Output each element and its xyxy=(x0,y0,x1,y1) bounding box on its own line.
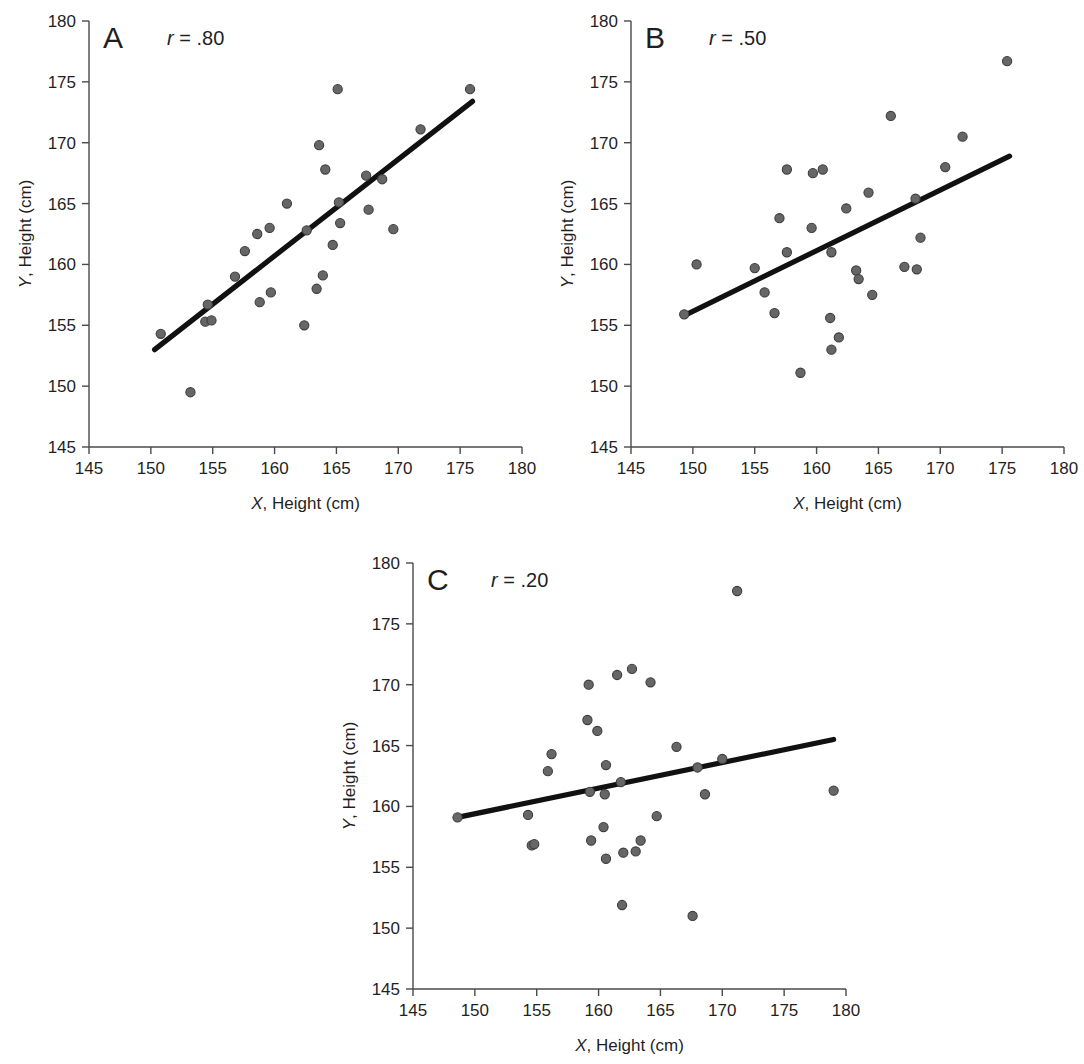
data-point xyxy=(733,586,742,595)
data-point xyxy=(692,260,701,269)
y-tick-label: 150 xyxy=(590,377,618,396)
x-tick-label: 145 xyxy=(617,459,645,478)
data-point xyxy=(864,188,873,197)
data-point xyxy=(941,162,950,171)
data-point xyxy=(652,812,661,821)
x-tick-label: 165 xyxy=(646,1001,674,1020)
x-tick-label: 170 xyxy=(708,1001,736,1020)
panel-letter: A xyxy=(103,21,123,54)
data-point xyxy=(334,198,343,207)
data-point-group xyxy=(453,586,838,920)
data-point xyxy=(852,266,861,275)
x-tick-label: 170 xyxy=(926,459,954,478)
y-tick-label: 180 xyxy=(48,12,76,31)
data-point xyxy=(808,169,817,178)
data-point xyxy=(827,345,836,354)
y-axis-title: Y, Height (cm) xyxy=(16,180,35,289)
x-tick-label: 165 xyxy=(864,459,892,478)
data-point xyxy=(770,309,779,318)
data-point xyxy=(688,911,697,920)
data-point xyxy=(186,388,195,397)
y-tick-label: 160 xyxy=(48,255,76,274)
data-point xyxy=(829,786,838,795)
y-tick-label: 145 xyxy=(590,438,618,457)
y-tick-label: 175 xyxy=(48,73,76,92)
correlation-value: = .50 xyxy=(716,27,767,49)
data-point xyxy=(782,165,791,174)
x-tick-label: 175 xyxy=(446,459,474,478)
data-point xyxy=(389,225,398,234)
panel-a: 1451501551601651701751801451501551601651… xyxy=(0,0,560,522)
y-axis-title: Y, Height (cm) xyxy=(340,722,359,831)
x-tick-label: 175 xyxy=(988,459,1016,478)
y-tick-label: 170 xyxy=(590,134,618,153)
regression-line xyxy=(155,101,473,349)
data-point xyxy=(253,229,262,238)
panel-letter: B xyxy=(645,21,665,54)
data-point xyxy=(523,810,532,819)
x-tick-label: 145 xyxy=(75,459,103,478)
data-point xyxy=(230,272,239,281)
data-point xyxy=(364,205,373,214)
correlation-value: = .80 xyxy=(174,27,225,49)
correlation-annotation: r = .80 xyxy=(167,27,224,49)
data-point xyxy=(718,754,727,763)
data-point xyxy=(900,262,909,271)
data-point xyxy=(362,171,371,180)
data-point xyxy=(336,218,345,227)
data-point xyxy=(265,223,274,232)
data-point xyxy=(203,300,212,309)
data-point xyxy=(601,760,610,769)
data-point xyxy=(868,290,877,299)
y-axis-title-text: , Height (cm) xyxy=(16,180,35,277)
data-point xyxy=(672,742,681,751)
data-point-group xyxy=(680,57,1012,378)
data-point xyxy=(760,288,769,297)
y-tick-label: 155 xyxy=(372,858,400,877)
y-tick-label: 180 xyxy=(590,12,618,31)
x-tick-label: 145 xyxy=(399,1001,427,1020)
data-point xyxy=(282,199,291,208)
data-point xyxy=(207,316,216,325)
x-tick-label: 150 xyxy=(137,459,165,478)
data-point xyxy=(636,836,645,845)
data-point xyxy=(453,813,462,822)
x-axis-title-symbol: X xyxy=(574,1036,587,1055)
data-point xyxy=(693,763,702,772)
data-point xyxy=(842,204,851,213)
data-point xyxy=(593,726,602,735)
data-point xyxy=(600,790,609,799)
x-tick-label: 180 xyxy=(1050,459,1078,478)
data-point xyxy=(302,226,311,235)
data-point xyxy=(583,715,592,724)
data-point xyxy=(599,823,608,832)
data-point xyxy=(700,790,709,799)
data-point xyxy=(584,680,593,689)
data-point xyxy=(912,265,921,274)
x-axis-title: X, Height (cm) xyxy=(792,494,902,513)
data-point xyxy=(916,233,925,242)
x-tick-label: 155 xyxy=(741,459,769,478)
data-point xyxy=(619,848,628,857)
data-point xyxy=(617,900,626,909)
data-point xyxy=(807,223,816,232)
x-axis-title: X, Height (cm) xyxy=(574,1036,684,1055)
y-tick-label: 175 xyxy=(590,73,618,92)
y-tick-label: 170 xyxy=(48,134,76,153)
data-point xyxy=(378,175,387,184)
y-axis-title-text: , Height (cm) xyxy=(340,722,359,819)
x-axis-title-text: , Height (cm) xyxy=(587,1036,684,1055)
y-tick-label: 175 xyxy=(372,615,400,634)
x-tick-label: 170 xyxy=(384,459,412,478)
data-point xyxy=(333,85,342,94)
data-point xyxy=(680,310,689,319)
data-point xyxy=(465,85,474,94)
data-point xyxy=(315,141,324,150)
y-tick-label: 155 xyxy=(48,316,76,335)
data-point xyxy=(156,329,165,338)
y-tick-label: 145 xyxy=(48,438,76,457)
x-tick-label: 160 xyxy=(802,459,830,478)
regression-line xyxy=(684,156,1009,315)
x-axis-title-symbol: X xyxy=(792,494,805,513)
data-point xyxy=(416,125,425,134)
